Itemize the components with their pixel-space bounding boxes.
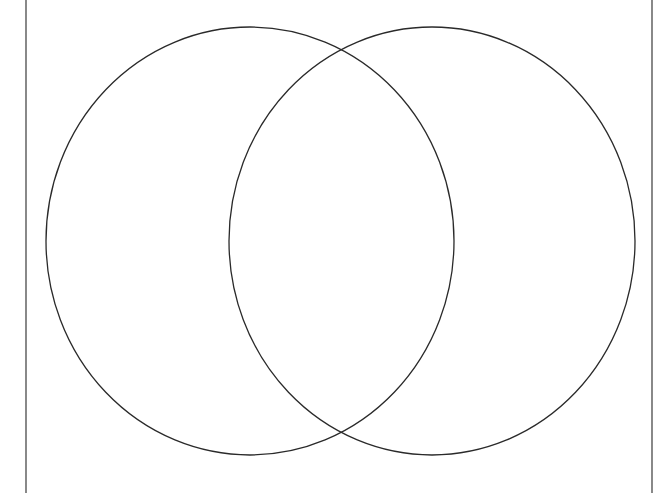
venn-diagram (0, 0, 670, 493)
background (0, 0, 670, 493)
